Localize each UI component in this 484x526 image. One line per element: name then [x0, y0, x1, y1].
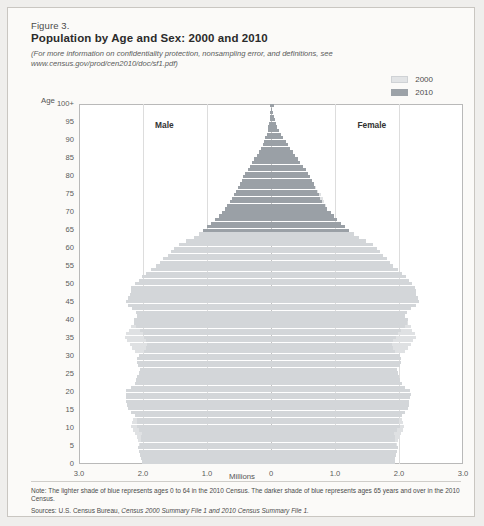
bar-female-2010 [271, 371, 398, 374]
bar-female-2010 [271, 393, 411, 396]
bar-male-2010 [254, 157, 271, 160]
y-axis-tick-label: 90 [40, 136, 74, 144]
bar-female-2010 [271, 435, 395, 438]
bar-male-2010 [242, 179, 271, 182]
x-axis-tick-label: 3.0 [59, 469, 99, 478]
y-axis-tick-label: 35 [40, 334, 74, 342]
bar-male-2010 [141, 435, 271, 438]
bar-female-2010 [271, 218, 337, 221]
bar-male-2010 [230, 200, 271, 203]
bar-male-2010 [257, 154, 271, 157]
bar-female-2010 [271, 282, 412, 285]
bar-male-2010 [219, 214, 271, 217]
bar-female-2010 [271, 446, 398, 449]
bar-male-2010 [137, 418, 271, 421]
bar-female-2010 [271, 346, 393, 349]
bar-male-2010 [143, 332, 271, 335]
bar-male-2010 [245, 172, 271, 175]
bar-male-2010 [128, 296, 271, 299]
bar-male-2010 [236, 190, 271, 193]
bar-male-2010 [127, 403, 271, 406]
bar-male-2010 [137, 314, 271, 317]
bar-female-2010 [271, 336, 396, 339]
bar-female-2010 [271, 140, 286, 143]
bar-female-2010 [271, 229, 349, 232]
bar-male-2010 [131, 386, 271, 389]
bar-male-2010 [139, 371, 271, 374]
y-axis-tick-label: 95 [40, 118, 74, 126]
bar-male-2010 [232, 197, 271, 200]
bar-female-2010 [271, 261, 390, 264]
bar-male-2010 [144, 350, 271, 353]
bar-female-2010 [271, 225, 345, 228]
bar-female-2010 [271, 311, 407, 314]
bar-male-2010 [139, 279, 271, 282]
bar-female-2010 [271, 354, 400, 357]
bar-female-2010 [271, 161, 300, 164]
sources-prefix: Sources: U.S. Census Bureau, [31, 507, 121, 514]
bar-female-2010 [271, 254, 383, 257]
y-axis-tick-label: 85 [40, 154, 74, 162]
bar-female-2010 [271, 450, 397, 453]
bar-female-2010 [271, 279, 409, 282]
y-axis-tick-label: 0 [40, 460, 74, 468]
bar-male-2010 [128, 407, 271, 410]
bar-female-2010 [271, 418, 399, 421]
y-axis-tick-label: 50 [40, 280, 74, 288]
bar-female-2010 [271, 207, 327, 210]
bar-male-2010 [131, 289, 271, 292]
bar-male-2010 [211, 222, 271, 225]
bar-male-2010 [238, 186, 271, 189]
bar-male-2010 [135, 382, 271, 385]
bar-male-2010 [131, 286, 271, 289]
bar-male-2010 [144, 336, 271, 339]
bar-male-2010 [142, 275, 271, 278]
bar-female-2010 [271, 143, 288, 146]
bar-male-2010 [140, 368, 271, 371]
bar-male-2010 [146, 272, 271, 275]
bar-male-2010 [250, 165, 271, 168]
bar-male-2010 [146, 339, 271, 342]
y-axis-tick-label: 15 [40, 406, 74, 414]
y-axis-tick-label: 45 [40, 298, 74, 306]
bar-male-2010 [215, 218, 271, 221]
bar-female-2010 [271, 133, 281, 136]
bar-female-2010 [271, 357, 401, 360]
bar-male-2010 [136, 378, 271, 381]
bar-female-2010 [271, 432, 394, 435]
footnote-divider [31, 481, 461, 482]
bar-male-2010 [140, 443, 271, 446]
bar-female-2010 [271, 453, 396, 456]
bar-male-2010 [261, 147, 271, 150]
x-axis-tick-label: 1.0 [315, 469, 355, 478]
y-axis-tick-label: 30 [40, 352, 74, 360]
bar-female-2010 [271, 343, 392, 346]
bar-female-2010 [271, 222, 341, 225]
bar-male-2010 [137, 421, 271, 424]
bar-male-2010 [163, 257, 271, 260]
bar-male-2010 [137, 361, 271, 364]
bar-male-2010 [141, 457, 271, 460]
population-pyramid-plot: 100+959085807570656055504540353025201510… [8, 8, 476, 518]
bar-female-2010 [271, 175, 310, 178]
y-axis-tick-label: 80 [40, 172, 74, 180]
y-axis-tick-label: 55 [40, 262, 74, 270]
bar-female-2010 [271, 275, 406, 278]
bar-female-2010 [271, 115, 274, 118]
y-axis-tick-label: 5 [40, 442, 74, 450]
bar-male-2010 [248, 168, 271, 171]
bar-female-2010 [271, 214, 334, 217]
bar-male-2010 [227, 204, 271, 207]
bar-male-2010 [138, 364, 271, 367]
bar-female-2010 [271, 243, 373, 246]
bar-male-2010 [264, 140, 271, 143]
bar-male-2010 [243, 175, 271, 178]
bar-male-2010 [186, 239, 271, 242]
bar-male-2010 [252, 161, 271, 164]
bar-male-2010 [135, 414, 271, 417]
y-axis-tick-label: 75 [40, 190, 74, 198]
bar-female-2010 [271, 443, 396, 446]
bar-male-2010 [134, 318, 271, 321]
bar-female-2010 [271, 293, 416, 296]
bar-male-2010 [137, 375, 271, 378]
